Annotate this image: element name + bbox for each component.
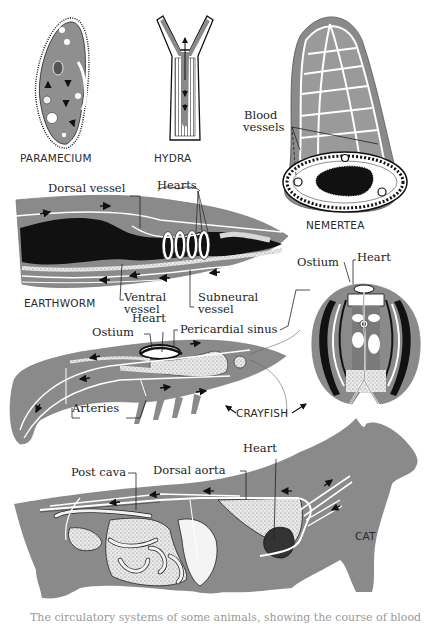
label-dorsal-aorta: Dorsal aorta [153,465,226,477]
caption-hydra: HYDRA [154,153,191,164]
label-subneural-vessel-line2: vessel [198,304,234,316]
label-section-ostium: Ostium [297,257,339,269]
label-crayfish-ostium: Ostium [92,327,134,339]
paramecium-illustration [35,18,89,148]
label-pericardial-sinus: Pericardial sinus [180,324,278,336]
label-cat-heart: Heart [243,443,277,455]
circulatory-systems-figure: PARAMECIUM HYDRA NEMERTEA EARTHWORM CRAY… [0,0,429,624]
nemertea-illustration [283,17,407,212]
label-blood-vessels-line2: vessels [243,122,285,134]
label-post-cava: Post cava [71,467,126,479]
caption-earthworm: EARTHWORM [24,298,95,309]
caption-crayfish: CRAYFISH [236,408,288,419]
crayfish-cross-section [312,260,420,404]
label-arteries: Arteries [72,403,119,415]
caption-paramecium: PARAMECIUM [20,153,92,164]
figure-caption-cut-off: The circulatory systems of some animals,… [30,612,429,624]
cat-illustration [14,418,417,598]
label-section-heart: Heart [357,252,391,264]
caption-nemertea: NEMERTEA [306,220,365,231]
hydra-illustration [157,16,213,140]
label-dorsal-vessel: Dorsal vessel [48,183,125,195]
earthworm-illustration [16,187,288,307]
caption-cat: CAT [355,531,376,542]
label-crayfish-heart: Heart [132,313,166,325]
label-hearts: Hearts [157,180,197,192]
